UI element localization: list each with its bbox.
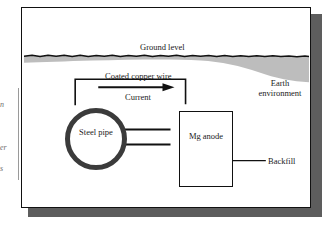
ground-level-label: Ground level bbox=[140, 42, 185, 52]
margin-text-fragment-3: s bbox=[0, 164, 11, 173]
coated-copper-wire-label: Coated copper wire bbox=[105, 71, 172, 81]
figure-plate: Ground level Coated copper wire Current … bbox=[21, 7, 311, 208]
figure-page: n er s bbox=[0, 0, 330, 231]
mg-anode-label: Mg anode bbox=[183, 131, 229, 141]
current-label: Current bbox=[125, 92, 151, 102]
backfill-label: Backfill bbox=[268, 156, 295, 166]
earth-environment-label: Earth environment bbox=[251, 78, 309, 98]
diagram-canvas bbox=[22, 8, 310, 207]
column-divider-rule bbox=[18, 88, 19, 180]
margin-text-fragment-1: n bbox=[0, 100, 11, 109]
margin-text-fragment-2: er bbox=[0, 143, 11, 152]
mg-anode-shape bbox=[179, 111, 233, 187]
current-arrow bbox=[98, 83, 174, 91]
steel-pipe-label: Steel pipe bbox=[77, 127, 115, 137]
steel-pipe-shape bbox=[65, 108, 127, 170]
